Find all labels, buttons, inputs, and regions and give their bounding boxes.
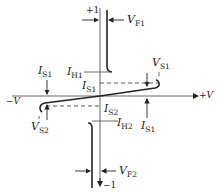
ih1-label: IH1 bbox=[67, 66, 83, 80]
upper-branch-curve bbox=[107, 10, 112, 72]
vs2-label: VS2 bbox=[31, 121, 49, 135]
vs1-label: VS1 bbox=[152, 57, 170, 71]
minus-one-label: −1 bbox=[103, 181, 116, 190]
ih2-label: IH2 bbox=[117, 117, 133, 131]
neg-v-label: −V bbox=[6, 97, 20, 106]
vf1-label: VF1 bbox=[127, 14, 145, 28]
is2-label: IS2 bbox=[104, 103, 118, 117]
is1-right-label: IS1 bbox=[141, 120, 155, 134]
plus-one-label: +1 bbox=[86, 6, 99, 15]
diagram-graphics bbox=[0, 0, 218, 192]
is1-left-label: IS1 bbox=[38, 65, 52, 79]
pos-v-label: +V bbox=[199, 91, 213, 100]
lower-branch-curve bbox=[88, 123, 92, 188]
is1-center-label: IS1 bbox=[82, 80, 96, 94]
iv-characteristic-diagram: +1 VF1 IH1 IS1 IS1 VS1 −V +V IS2 IS1 VS2… bbox=[0, 0, 218, 192]
forward-blocking-curve bbox=[100, 80, 159, 96]
vf2-label: VF2 bbox=[119, 165, 137, 179]
reverse-blocking-curve bbox=[40, 96, 100, 112]
